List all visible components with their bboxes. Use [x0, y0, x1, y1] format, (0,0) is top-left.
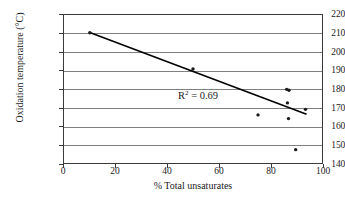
x-tick-mark-80 [271, 164, 272, 168]
x-tick-label-40: 40 [152, 167, 182, 177]
trendline-segment [90, 32, 307, 114]
r-squared-value: = 0.69 [189, 90, 219, 101]
y-axis-title: Oxidation temperature (°C) [14, 0, 25, 143]
x-tick-mark-100 [323, 164, 324, 168]
data-point [286, 101, 289, 104]
x-tick-label-80: 80 [256, 167, 286, 177]
x-tick-label-60: 60 [204, 167, 234, 177]
data-point [191, 67, 194, 70]
r-squared-prefix: R [178, 90, 185, 101]
x-tick-mark-60 [219, 164, 220, 168]
data-layer [64, 15, 322, 163]
data-point [294, 148, 297, 151]
x-tick-label-0: 0 [48, 167, 78, 177]
x-tick-mark-20 [115, 164, 116, 168]
plot-area [63, 14, 323, 164]
data-point [287, 89, 290, 92]
x-tick-mark-0 [63, 164, 64, 168]
trendline [90, 32, 307, 114]
x-axis-title: % Total unsaturates [63, 180, 323, 191]
r-squared-annotation: R2 = 0.69 [178, 90, 218, 101]
data-point [287, 117, 290, 120]
data-point [88, 31, 91, 34]
data-point [256, 113, 259, 116]
data-point [304, 108, 307, 111]
chart-container: Oxidation temperature (°C) 220 210 200 1… [0, 0, 345, 201]
x-tick-mark-40 [167, 164, 168, 168]
x-tick-label-20: 20 [100, 167, 130, 177]
x-tick-label-100: 100 [308, 167, 338, 177]
